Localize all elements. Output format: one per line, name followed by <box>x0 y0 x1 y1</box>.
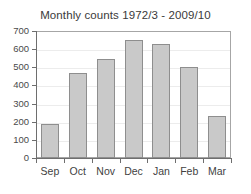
x-axis-tick <box>120 159 121 163</box>
y-axis-tick-label: 300 <box>0 98 29 109</box>
bar-feb <box>180 67 198 158</box>
bar-mar <box>208 116 226 158</box>
x-axis-tick <box>36 159 37 163</box>
x-axis-tick <box>64 159 65 163</box>
x-axis-tick <box>231 159 232 163</box>
x-axis-line <box>36 158 232 159</box>
chart-title: Monthly counts 1972/3 - 2009/10 <box>0 9 251 21</box>
x-axis-tick <box>147 159 148 163</box>
y-axis-tick-label: 500 <box>0 61 29 72</box>
bar-chart-figure: Monthly counts 1972/3 - 2009/10 01002003… <box>0 0 251 194</box>
bar-oct <box>69 73 87 158</box>
bar-dec <box>125 40 143 158</box>
bar-jan <box>152 44 170 158</box>
bar-nov <box>97 59 115 158</box>
y-axis-tick-label: 100 <box>0 134 29 145</box>
y-axis-tick-label: 0 <box>0 152 29 163</box>
y-axis-tick-label: 700 <box>0 25 29 36</box>
x-axis-tick <box>203 159 204 163</box>
y-axis-tick-label: 600 <box>0 43 29 54</box>
y-axis-line <box>36 31 37 159</box>
y-axis-tick-label: 200 <box>0 116 29 127</box>
x-axis-tick-label: Mar <box>197 165 237 177</box>
y-axis-tick-label: 400 <box>0 79 29 90</box>
x-axis-tick <box>175 159 176 163</box>
x-axis-tick <box>92 159 93 163</box>
bar-sep <box>41 124 59 158</box>
